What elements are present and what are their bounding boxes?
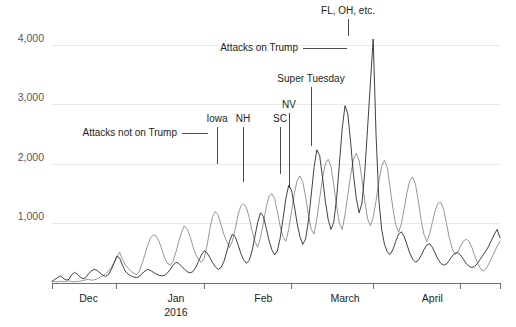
- y-tick-label: 4,000: [18, 32, 44, 44]
- series-line-attacks-on-trump: [52, 39, 500, 281]
- x-tick-label-feb: Feb: [254, 292, 272, 304]
- data-series: [52, 39, 500, 282]
- x-tick-label-dec: Dec: [79, 292, 98, 304]
- x-axis: [52, 283, 500, 289]
- annotation-label-iowa: Iowa: [206, 113, 228, 124]
- y-tick-label: 3,000: [18, 91, 44, 103]
- x-tick-label-jan: Jan: [168, 292, 185, 304]
- attacks-timeline-chart: 1,0002,0003,0004,000 DecJan2016FebMarchA…: [0, 0, 516, 327]
- annotation-label-super-tuesday: Super Tuesday: [277, 73, 344, 84]
- x-tick-sublabel-year: 2016: [164, 306, 188, 318]
- chart-annotations: Attacks not on TrumpIowaNHSCNVSuper Tues…: [83, 5, 375, 188]
- chart-canvas: 1,0002,0003,0004,000 DecJan2016FebMarchA…: [0, 0, 516, 327]
- y-tick-label: 2,000: [18, 151, 44, 163]
- x-tick-label-april: April: [422, 292, 443, 304]
- annotation-label-nevada: NV: [282, 99, 296, 110]
- annotation-label-attacks-on-trump: Attacks on Trump: [220, 42, 298, 53]
- y-axis-tick-labels: 1,0002,0003,0004,000: [18, 32, 44, 223]
- y-tick-label: 1,000: [18, 210, 44, 222]
- annotation-label-new-hampshire: NH: [236, 113, 250, 124]
- x-tick-label-march: March: [330, 292, 359, 304]
- x-axis-tick-labels: DecJan2016FebMarchApril: [79, 292, 443, 318]
- annotation-label-attacks-not-on-trump: Attacks not on Trump: [83, 127, 178, 138]
- series-line-attacks-not-on-trump: [52, 153, 500, 282]
- annotation-label-south-carolina: SC: [273, 113, 287, 124]
- annotation-label-fl-oh-etc: FL, OH, etc.: [321, 5, 375, 16]
